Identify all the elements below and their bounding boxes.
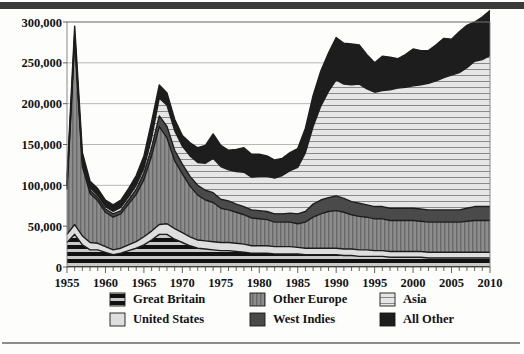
x-tick-label: 1990 [324, 276, 349, 290]
legend-swatch-solid-black [380, 313, 395, 326]
y-tick-label: 250,000 [21, 56, 62, 70]
x-tick-label: 1955 [55, 276, 80, 290]
immigration-stacked-area-chart: 050,000100,000150,000200,000250,000300,0… [0, 9, 524, 345]
x-tick-label: 1985 [285, 276, 310, 290]
legend-label: United States [133, 312, 204, 326]
legend-item-united-states: United States [110, 312, 204, 326]
legend-label: Asia [403, 292, 427, 306]
y-tick-label: 0 [56, 261, 62, 275]
legend-item-all-other: All Other [380, 312, 454, 326]
y-tick-label: 150,000 [21, 138, 62, 152]
x-tick-label: 1975 [208, 276, 233, 290]
chart-canvas: 050,000100,000150,000200,000250,000300,0… [0, 9, 524, 345]
x-tick-label: 1995 [362, 276, 387, 290]
legend-label: Great Britain [133, 292, 205, 306]
legend-swatch-horizontal-stripe-dark [110, 293, 125, 306]
x-tick-label: 1965 [131, 276, 156, 290]
y-tick-label: 200,000 [21, 97, 62, 111]
y-tick-label: 50,000 [28, 220, 62, 234]
legend-label: Other Europe [273, 292, 348, 306]
x-tick-label: 2005 [439, 276, 464, 290]
top-divider-rule [0, 2, 524, 9]
x-tick-label: 1970 [170, 276, 195, 290]
legend-item-great-britain: Great Britain [110, 292, 205, 306]
x-tick-label: 1980 [247, 276, 272, 290]
legend-swatch-horizontal-stripe-light [380, 293, 395, 306]
x-tick-label: 2000 [401, 276, 426, 290]
x-tick-label: 1960 [93, 276, 118, 290]
legend-item-other-europe: Other Europe [250, 292, 348, 306]
legend-swatch-vertical-stripe-gray [250, 293, 265, 306]
y-tick-label: 100,000 [21, 179, 62, 193]
y-tick-label: 300,000 [21, 16, 62, 30]
bottom-divider-rule [2, 342, 520, 344]
legend-swatch-solid-dark-gray [250, 313, 265, 326]
legend-item-asia: Asia [380, 292, 427, 306]
x-tick-label: 2010 [478, 276, 503, 290]
legend-item-west-indies: West Indies [250, 312, 335, 326]
legend-label: All Other [403, 312, 454, 326]
legend-swatch-solid-light [110, 313, 125, 326]
legend-label: West Indies [273, 312, 335, 326]
